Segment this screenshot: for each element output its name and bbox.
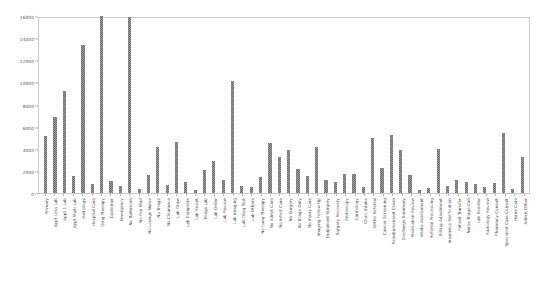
bar[interactable] (44, 136, 47, 193)
bar[interactable] (324, 180, 327, 193)
y-axis-tick-label: 4000 (23, 147, 34, 152)
bar-slot (321, 18, 330, 193)
x-axis-slot: Hospital Care (87, 195, 96, 285)
bar[interactable] (184, 182, 187, 193)
bar[interactable] (53, 117, 56, 193)
bar-slot (405, 18, 414, 193)
x-axis-tick-mark (336, 194, 337, 196)
x-axis-slot: No Fee Stall (134, 195, 143, 285)
x-axis-tick-mark (270, 194, 271, 196)
bar[interactable] (175, 142, 178, 193)
y-axis-tick-label: 12000 (20, 59, 34, 64)
x-axis-tick-mark (204, 194, 205, 196)
bar[interactable] (156, 147, 159, 193)
bar[interactable] (100, 16, 103, 193)
x-axis-tick-mark (120, 194, 121, 196)
x-axis-tick-mark (167, 194, 168, 196)
bar[interactable] (334, 182, 337, 193)
x-axis-slot: Discharge Summary (397, 195, 406, 285)
x-axis-slot: Intake Assessment (416, 195, 425, 285)
x-axis-tick-mark (467, 194, 468, 196)
x-axis-slot: Lab Reorder (472, 195, 481, 285)
x-axis-tick-mark (345, 194, 346, 196)
y-axis: 1600014000120001000080006000400020000 (0, 17, 38, 194)
bar[interactable] (63, 91, 66, 193)
bar[interactable] (437, 149, 440, 193)
bar[interactable] (493, 183, 496, 193)
bar[interactable] (109, 181, 112, 193)
x-axis-slot: Lab Draw (171, 195, 180, 285)
bar[interactable] (343, 174, 346, 193)
y-axis-tick-label: 16000 (20, 15, 34, 20)
bar-slot (191, 18, 200, 193)
bar-slot (256, 18, 265, 193)
bar[interactable] (128, 17, 131, 193)
bar[interactable] (483, 187, 486, 193)
x-axis-tick-mark (458, 194, 459, 196)
x-axis-slot: Lab Others (247, 195, 256, 285)
bar-slot (228, 18, 237, 193)
bar[interactable] (418, 190, 421, 193)
bar[interactable] (250, 187, 253, 193)
bar[interactable] (390, 135, 393, 193)
bar[interactable] (81, 45, 84, 193)
bar[interactable] (147, 175, 150, 193)
bar[interactable] (278, 157, 281, 193)
x-axis-tick-mark (439, 194, 440, 196)
bar[interactable] (455, 180, 458, 193)
bar[interactable] (446, 186, 449, 193)
x-axis-tick-mark (317, 194, 318, 196)
bar[interactable] (222, 180, 225, 193)
x-axis-tick-mark (448, 194, 449, 196)
bar-slot (209, 18, 218, 193)
bar[interactable] (427, 188, 430, 193)
bar[interactable] (91, 184, 94, 193)
x-axis-slot: Primary (40, 195, 49, 285)
bar-slot (125, 18, 134, 193)
bar[interactable] (465, 182, 468, 193)
bar[interactable] (268, 143, 271, 193)
x-axis-tick-mark (383, 194, 384, 196)
bar[interactable] (259, 177, 262, 193)
y-axis-tick-label: 6000 (23, 125, 34, 130)
bar[interactable] (511, 189, 514, 193)
bar[interactable] (203, 170, 206, 193)
bar[interactable] (315, 147, 318, 193)
bar[interactable] (352, 174, 355, 193)
bar-slot (106, 18, 115, 193)
bar[interactable] (296, 169, 299, 193)
bar-slot (275, 18, 284, 193)
bar[interactable] (408, 175, 411, 193)
bar[interactable] (119, 186, 122, 193)
bar-slot (219, 18, 228, 193)
bar[interactable] (521, 157, 524, 194)
x-axis-slot: Appt Less Lab (49, 195, 58, 285)
bar[interactable] (474, 184, 477, 193)
plot-area (38, 17, 530, 194)
bar[interactable] (194, 190, 197, 193)
bar[interactable] (287, 150, 290, 193)
bar-slot (181, 18, 190, 193)
bar[interactable] (371, 138, 374, 193)
x-axis-slot: Home Care (510, 195, 519, 285)
x-axis-tick-mark (148, 194, 149, 196)
bar[interactable] (138, 189, 141, 193)
bar[interactable] (362, 187, 365, 193)
x-axis-slot: Lab Order (209, 195, 218, 285)
bar[interactable] (399, 150, 402, 193)
bar[interactable] (166, 185, 169, 193)
x-axis-tick-mark (186, 194, 187, 196)
bar[interactable] (306, 176, 309, 193)
bar[interactable] (240, 186, 243, 193)
bar[interactable] (72, 176, 75, 193)
bar[interactable] (380, 168, 383, 193)
x-axis-tick-mark (73, 194, 74, 196)
bar[interactable] (212, 161, 215, 193)
x-axis-tick-mark (514, 194, 515, 196)
x-axis-slot: Cardiology (350, 195, 359, 285)
x-axis-slot: Lab Complete (181, 195, 190, 285)
bar-slot (237, 18, 246, 193)
bar[interactable] (231, 81, 234, 193)
x-axis-slot: Emergency (115, 195, 124, 285)
bar[interactable] (502, 133, 505, 193)
